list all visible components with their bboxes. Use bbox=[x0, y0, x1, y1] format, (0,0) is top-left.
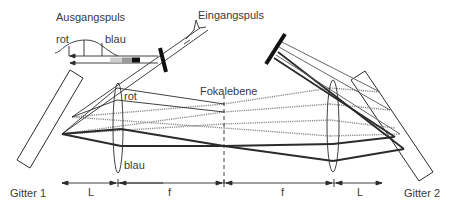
left-mirror bbox=[160, 48, 166, 72]
dim-f-right: f bbox=[281, 187, 284, 198]
grating-2-label: Gitter 2 bbox=[404, 188, 440, 199]
grating-1 bbox=[17, 70, 83, 168]
dim-L-left: L bbox=[88, 187, 94, 198]
dimension-line bbox=[62, 179, 382, 187]
stretcher-diagram: Ausgangspuls Eingangspuls rot blau Fokal… bbox=[0, 0, 451, 208]
lens-1 bbox=[113, 83, 123, 173]
lens-blue-label: blau bbox=[124, 160, 145, 171]
grating-2 bbox=[351, 71, 433, 181]
dim-f-left: f bbox=[168, 187, 171, 198]
input-pulse-label: Eingangspuls bbox=[198, 10, 264, 21]
grating-1-label: Gitter 1 bbox=[10, 188, 46, 199]
dim-L-right: L bbox=[357, 187, 363, 198]
focal-plane-label: Fokalebene bbox=[200, 86, 258, 97]
output-pulse-label: Ausgangspuls bbox=[56, 12, 125, 23]
pulse-blue-label: blau bbox=[105, 34, 126, 45]
pulse-red-label: rot bbox=[56, 34, 69, 45]
pulse-chirp-bar bbox=[110, 58, 140, 63]
lens-red-label: rot bbox=[124, 91, 137, 102]
